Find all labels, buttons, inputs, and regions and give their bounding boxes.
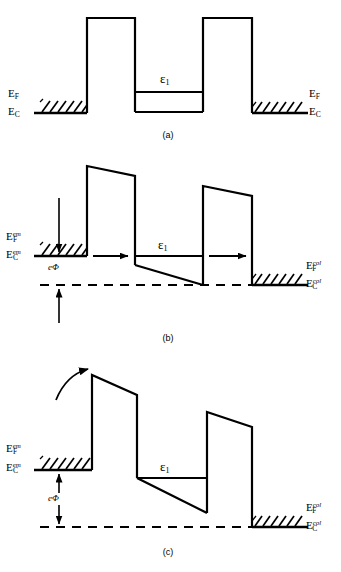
panel-a-left-barrier <box>87 18 135 113</box>
panel-c-emitter-hatch <box>40 456 90 469</box>
panel-b-label-bias: eΦ <box>48 263 59 272</box>
panel-c-label-conduction-collector: EcolC <box>306 520 317 533</box>
panel-b-label-resonant-level: ε1 <box>158 238 167 253</box>
panel-c-caption: (c) <box>138 547 198 557</box>
panel-b-label-conduction-emitter: EemC <box>6 249 18 262</box>
panel-c-graphics <box>34 369 308 527</box>
panel-b-caption: (b) <box>138 333 198 343</box>
panel-a-collector-hatch <box>252 102 302 112</box>
panel-c-label-fermi-emitter: EemF <box>6 443 17 456</box>
panel-b-right-barrier <box>203 186 252 285</box>
panel-a-emitter-hatch <box>40 99 87 112</box>
panel-c-left-barrier <box>92 375 137 478</box>
panel-b-graphics <box>34 166 308 323</box>
panel-a-label-conduction-left: EC <box>8 106 20 119</box>
band-diagram-svg <box>0 0 341 572</box>
panel-a-caption: (a) <box>138 130 198 140</box>
panel-c-well-floor <box>137 478 207 513</box>
panel-c-thermionic-arrow <box>56 369 88 400</box>
panel-b-label-fermi-collector: EcolF <box>306 260 316 273</box>
panel-a-label-fermi-right: EF <box>309 88 320 101</box>
panel-c-label-conduction-emitter: EemC <box>6 462 18 475</box>
panel-b-label-conduction-collector: EcolC <box>306 278 317 291</box>
panel-c-label-bias: eΦ <box>48 494 59 503</box>
panel-c-label-fermi-collector: EcolF <box>306 502 316 515</box>
panel-c-collector-hatch <box>252 516 302 526</box>
panel-a-right-barrier <box>203 18 252 113</box>
panel-c-label-resonant-level: ε1 <box>160 460 169 475</box>
panel-b-well-floor <box>135 265 203 285</box>
panel-b-emitter-hatch <box>40 242 87 255</box>
panel-a-graphics <box>34 18 308 113</box>
panel-a-label-fermi-left: EF <box>8 88 19 101</box>
panel-b-left-barrier <box>87 166 135 256</box>
panel-b-label-fermi-emitter: EemF <box>6 231 17 244</box>
panel-b-collector-hatch <box>252 274 302 284</box>
band-diagram-figure: EF EC EF EC ε1 (a) EemF EemC EcolF EcolC… <box>0 0 341 572</box>
panel-c-right-barrier <box>207 412 252 527</box>
panel-a-label-resonant-level: ε1 <box>160 72 169 87</box>
panel-a-label-conduction-right: EC <box>309 106 321 119</box>
